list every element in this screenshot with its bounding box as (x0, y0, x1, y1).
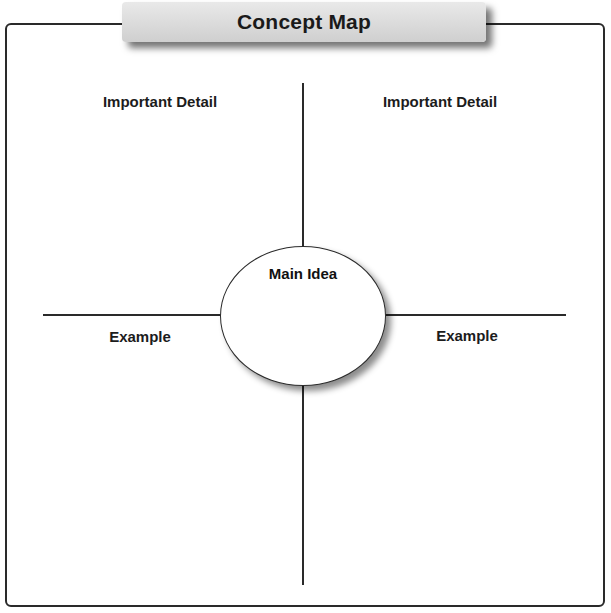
page-title: Concept Map (237, 10, 371, 34)
connector-bottom (302, 386, 304, 585)
connector-left (43, 314, 221, 316)
example-label-right: Example (436, 327, 498, 344)
title-banner: Concept Map (122, 2, 486, 42)
connector-right (385, 314, 566, 316)
example-label-left: Example (109, 328, 171, 345)
main-idea-label: Main Idea (269, 265, 337, 282)
important-detail-label-right: Important Detail (383, 93, 497, 110)
connector-top (302, 83, 304, 246)
important-detail-label-left: Important Detail (103, 93, 217, 110)
